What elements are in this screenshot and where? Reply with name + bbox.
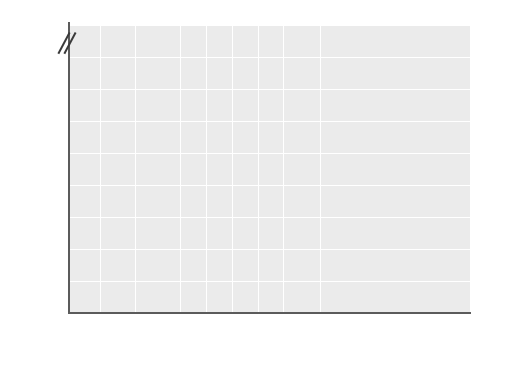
sleep-bands — [0, 0, 508, 378]
sleep-chart-figure — [0, 0, 508, 378]
y-axis-break-icon — [60, 30, 78, 56]
y-axis-line — [68, 22, 70, 314]
x-axis-line — [68, 312, 471, 314]
